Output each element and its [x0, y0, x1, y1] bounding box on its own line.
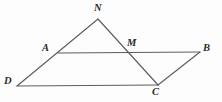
segment-A-B [58, 52, 200, 53]
vertex-label-A: A [42, 43, 49, 54]
vertex-label-M: M [127, 38, 136, 49]
vertex-label-D: D [4, 76, 12, 87]
segment-D-C [17, 85, 158, 86]
geometry-figure: N A M B D C [0, 0, 222, 102]
segment-C-B [158, 52, 200, 85]
vertex-label-N: N [94, 3, 102, 14]
figure-canvas [0, 0, 222, 102]
vertex-label-B: B [203, 43, 210, 54]
vertex-label-C: C [152, 87, 159, 98]
